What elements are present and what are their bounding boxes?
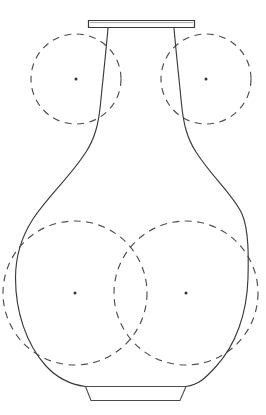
- vase-foot: [86, 387, 187, 401]
- upper-left-center-dot: [75, 78, 78, 81]
- vase-foot-group: [86, 387, 187, 401]
- upper-right-center-dot: [205, 78, 208, 81]
- vase-rim: [89, 21, 195, 28]
- lower-right-center-dot: [185, 292, 188, 295]
- lower-left-center-dot: [74, 292, 77, 295]
- figure-root: [0, 0, 266, 415]
- vase-rim-group: [89, 21, 195, 28]
- vase-construction-diagram: [0, 0, 266, 415]
